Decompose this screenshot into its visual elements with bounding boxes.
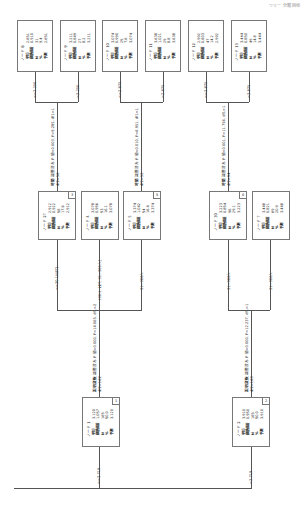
split-n5: 時間 調整済み P 値=0.010, F=6.951, df1=1df2=52 (135, 108, 144, 186)
edge-label-n10: <=2.875 (118, 82, 122, 98)
node-stats: 平均3.448 標準偏差0.821 N69 %20.9 予測3.448 (262, 200, 285, 230)
tree-node-1[interactable]: 1 ノード 1 平均3.120 標準偏差1.057 N165 %50.0 予測3… (82, 397, 120, 447)
edge-label-n9: >3.250 (76, 85, 80, 98)
tree-node-7[interactable]: ノード 7 平均3.448 標準偏差0.821 N69 %20.9 予測3.44… (252, 191, 290, 240)
split-n2: 説明変数 調整済み P 値=0.000, F=12.237, df1=1df2=… (245, 304, 254, 392)
connector-n2-children (228, 310, 270, 311)
edge-label-root-left: <=3.719 (97, 468, 101, 484)
connector-n1-children (57, 310, 142, 311)
node-stats: 平均3.223 標準偏差0.854 N96 %29.1 予測3.223 (219, 200, 242, 230)
tree-node-13[interactable]: ノード 13 平均3.444 標準偏差0.850 N49 %14.8 予測3.4… (231, 20, 267, 72)
node-tag: 6 (239, 191, 247, 199)
node-stats: 平均3.638 標準偏差1.021 N29 %8.8 予測3.638 (154, 31, 177, 61)
tree-node-10[interactable]: ノード 10 平均3.074 標準偏差0.990 N25 %7.6 予測3.07… (102, 20, 138, 72)
node-stats: 平均3.074 標準偏差0.990 N25 %7.6 予測3.074 (111, 31, 134, 61)
header-text: ツリー 分類 回帰 (269, 2, 300, 8)
node-stats: 平均2.912 標準偏差0.922 N58 %17.6 予測2.912 (48, 200, 71, 230)
node-stats: 平均3.374 標準偏差1.042 N54 %16.4 予測3.374 (133, 200, 156, 230)
node-stats: 平均3.444 標準偏差0.850 N49 %14.8 予測3.444 (240, 31, 263, 61)
edge-label-n11: >2.875 (161, 85, 165, 98)
node-stats: 平均2.992 標準偏差0.803 N47 %14.2 予測2.992 (197, 31, 220, 61)
node-stats: 平均3.120 標準偏差1.057 N165 %50.0 予測3.120 (92, 407, 115, 437)
tree-node-12[interactable]: ノード 12 平均2.992 標準偏差0.803 N47 %14.2 予測2.9… (188, 20, 224, 72)
split-n1: 説明変数 調整済み P 値=0.000, F=14.065, df1=2df2=… (93, 304, 102, 392)
node-stats: 平均3.211 標準偏差0.849 N27 %8.2 予測3.211 (69, 31, 92, 61)
tree-node-6[interactable]: 6 ノード 30 平均3.223 標準偏差0.854 N96 %29.1 予測3… (209, 191, 247, 240)
tree-node-9[interactable]: ノード 9 平均3.211 標準偏差0.849 N27 %8.2 予測3.211 (60, 20, 96, 72)
tree-node-5[interactable]: 5 ノード 5 平均3.374 標準偏差1.042 N54 %16.4 予測3.… (123, 191, 161, 240)
tree-node-11[interactable]: ノード 11 平均3.638 標準偏差1.021 N29 %8.8 予測3.63… (145, 20, 181, 72)
split-n3: 時間 調整済み P 値=0.003, F=9.285, df1=1df2=56 (51, 108, 60, 186)
tree-node-3[interactable]: 3 ノード 27 平均2.912 標準偏差0.922 N58 %17.6 予測2… (38, 191, 76, 240)
edge-label-n8: <=3.250 (33, 82, 37, 98)
split-n6: 時間 調整済み P 値=0.001, F=11.756, df1=1df2=94 (222, 106, 231, 186)
edge-label-n13: >3.875 (247, 85, 251, 98)
edge-label-n7: 31~300人 (268, 272, 273, 290)
root-trunk (14, 488, 252, 489)
node-tag: 3 (68, 191, 76, 199)
edge-label-n12: <=3.875 (204, 82, 208, 98)
node-stats: 平均2.651 標準偏差0.910 N31 %9.4 予測2.651 (26, 31, 49, 61)
tree-node-8[interactable]: ノード 8 平均2.651 標準偏差0.910 N31 %9.4 予測2.651 (17, 20, 53, 72)
node-tag: 2 (262, 397, 270, 405)
tree-node-4[interactable]: ノード 4 平均3.078 標準偏差0.956 N53 %16.1 予測3.07… (81, 191, 119, 240)
node-stats: 平均3.078 標準偏差0.956 N53 %16.1 予測3.078 (91, 200, 114, 230)
edge-label-n5: 31~300人 (139, 272, 144, 290)
edge-label-n3: <=30.1(LET) (55, 267, 59, 290)
edge-label-n6: 31~300人 (226, 272, 231, 290)
node-tag: 5 (153, 191, 161, 199)
node-tag: 1 (112, 397, 120, 405)
tree-node-2[interactable]: 2 ノード 2 平均3.910 標準偏差0.950 N165 %50.0 予測3… (232, 397, 270, 447)
edge-label-root-right: >3.719 (249, 471, 253, 484)
edge-label-n4: (30.1, LET, 31~300人] (97, 260, 102, 300)
node-stats: 平均3.910 標準偏差0.950 N165 %50.0 予測3.910 (242, 407, 265, 437)
